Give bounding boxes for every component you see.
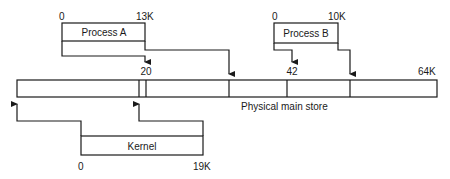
memory-mapping-diagram [0,0,450,179]
process-a-start-label: 0 [59,11,65,22]
kernel-map-start [17,104,81,136]
kernel-start-label: 0 [78,161,84,172]
process-a-label: Process A [81,27,126,38]
process-a-map-end [145,41,229,74]
kernel-end-label: 19K [193,161,211,172]
process-b-label: Process B [283,28,329,39]
process-b-map-start [274,43,292,62]
kernel-label: Kernel [128,141,157,152]
process-b-end-label: 10K [328,11,346,22]
process-a-map-start [62,41,145,62]
process-a-target-label: 20 [140,66,151,77]
main-store-label: Physical main store [241,101,328,112]
process-b-map-end [338,43,350,74]
main-store-end-label: 64K [418,66,436,77]
process-b-start-label: 0 [272,11,278,22]
process-a-end-label: 13K [136,11,154,22]
kernel-map-end [139,104,203,136]
process-b-target-label: 42 [286,66,297,77]
main-store-bar [17,80,437,97]
